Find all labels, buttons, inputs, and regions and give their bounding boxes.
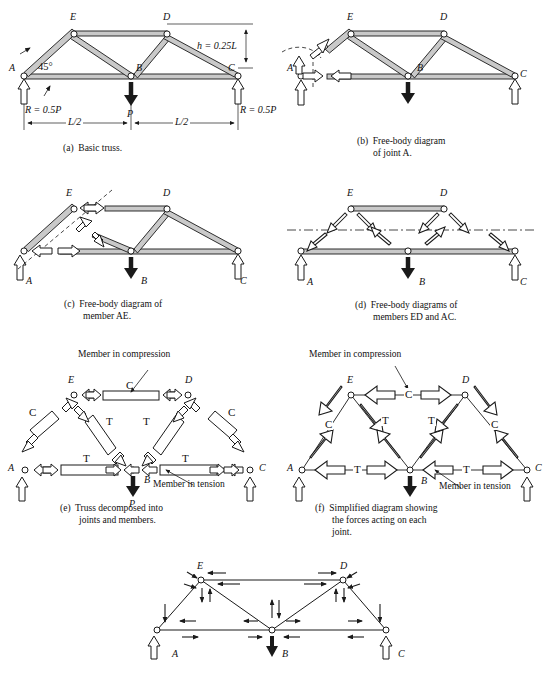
joint-label-a-a: A	[9, 62, 15, 73]
member-mark-f-t-bottom-right: T	[462, 463, 471, 475]
joint-label-d-f: D	[462, 374, 469, 385]
member-mark-t-diag-right: T	[143, 415, 150, 427]
panel-e-caption-l1: (e) Truss decomposed into	[60, 502, 163, 514]
joint-label-a-c: A	[26, 275, 32, 286]
joint-label-e-f: E	[347, 374, 353, 385]
panel-d-caption-l1: (d) Free-body diagrams of	[355, 299, 457, 311]
joint-label-d-a: D	[163, 11, 170, 22]
panel-f-caption-l2: the forces acting on each	[332, 514, 426, 526]
panel-b-drawing	[277, 0, 554, 150]
load-arrow-p-f	[403, 476, 417, 497]
joint-label-e-d: E	[347, 187, 353, 198]
member-mark-t-diag-left: T	[106, 415, 113, 427]
joint-label-b-e: B	[144, 474, 150, 485]
panel-f-simplified-joint-forces: Member in compression Member in tension …	[277, 348, 554, 528]
force-arrows-e	[22, 389, 244, 476]
panel-e-decomposed-truss: Member in compression Member in tension …	[0, 348, 277, 528]
member-mark-c-right: C	[228, 406, 235, 418]
load-label-p-a: P	[127, 108, 133, 119]
span-left-label: L/2	[66, 116, 83, 127]
panel-c-caption-l2: member AE.	[83, 310, 131, 322]
joint-label-c-d: C	[520, 276, 527, 287]
panel-e-caption-l2: joints and members.	[79, 514, 156, 526]
callout-compression-e: Member in compression	[78, 349, 170, 359]
member-mark-t-bottom-right: T	[182, 452, 189, 464]
joint-label-c-c: C	[240, 275, 247, 286]
joint-label-b-a: B	[136, 62, 142, 73]
joint-label-d-b: D	[440, 11, 447, 22]
panel-b-caption-l2: of joint A.	[373, 147, 412, 159]
joint-label-a-f: A	[287, 462, 293, 473]
joint-label-d-c: D	[163, 187, 170, 198]
cut-line-c	[18, 190, 112, 269]
panel-b-caption-l1: (b) Free-body diagram	[357, 135, 445, 147]
callout-compression-f: Member in compression	[309, 349, 401, 359]
panel-c-fbd-member-ae: E D A B C (c) Free-body diagram of membe…	[0, 175, 277, 345]
panel-g-resultant-forces: E D A B C	[140, 558, 430, 674]
panel-e-drawing	[0, 348, 277, 508]
panel-a-caption: (a) Basic truss.	[63, 142, 122, 154]
member-mark-f-t-bottom-left: T	[353, 463, 362, 475]
joint-label-e-c: E	[66, 187, 72, 198]
panel-c-caption-l1: (c) Free-body diagram of	[64, 298, 162, 310]
member-mark-c-top: C	[126, 379, 133, 391]
callout-tension-e: Member in tension	[153, 479, 225, 489]
reaction-right-label-a: R = 0.5P	[240, 104, 276, 115]
load-arrow-p-e	[126, 476, 140, 497]
panel-f-drawing	[277, 348, 554, 508]
joint-label-b-g: B	[282, 648, 288, 659]
panel-f-caption-l1: (f) Simplified diagram showing	[315, 502, 437, 514]
joint-label-c-f: C	[535, 462, 542, 473]
joint-label-c-g: C	[398, 648, 405, 659]
joint-label-e-e: E	[68, 374, 74, 385]
joint-label-d-d: D	[440, 187, 447, 198]
load-arrow-p-d	[401, 257, 415, 279]
joint-label-d-g: D	[340, 560, 347, 571]
height-label: h = 0.25L	[197, 40, 237, 51]
member-mark-f-c-right: C	[490, 418, 499, 430]
member-mark-f-t-diag-right: T	[427, 414, 436, 426]
joints-e	[22, 392, 253, 473]
panel-f-caption-l3: joint.	[332, 526, 352, 538]
panel-a-drawing	[0, 0, 277, 150]
joint-label-b-f: B	[421, 475, 427, 486]
joint-label-a-g: A	[172, 648, 178, 659]
member-mark-f-t-diag-left: T	[381, 414, 390, 426]
load-arrow-p-g	[266, 636, 278, 657]
load-arrow-p-c	[124, 257, 138, 279]
joint-label-a-d: A	[307, 276, 313, 287]
members-b	[298, 29, 518, 79]
joint-label-a-e: A	[8, 462, 14, 473]
angle-label-45: 45°	[38, 61, 53, 72]
joint-label-c-b: C	[520, 68, 527, 79]
joint-label-d-e: D	[185, 374, 192, 385]
joint-label-e-b: E	[347, 11, 353, 22]
callout-tension-f: Member in tension	[439, 481, 511, 491]
joint-label-c-a: C	[228, 62, 235, 73]
member-mark-t-bottom-left: T	[83, 452, 90, 464]
joint-label-b-c: B	[141, 275, 147, 286]
panel-a-basic-truss: E D A B C 45° h = 0.25L R = 0.5P R = 0.5…	[0, 0, 277, 170]
panel-b-fbd-joint-a: E D A B C (b) Free-body diagram of joint…	[277, 0, 554, 170]
member-mark-f-c-top: C	[404, 388, 413, 400]
joint-label-b-d: B	[419, 276, 425, 287]
joint-label-b-b: B	[417, 62, 423, 73]
member-mark-c-left: C	[29, 406, 36, 418]
span-right-label: L/2	[173, 116, 190, 127]
member-mark-f-c-left: C	[324, 418, 333, 430]
members-a	[21, 29, 241, 79]
joint-label-e-g: E	[197, 560, 203, 571]
separated-members-e	[30, 391, 237, 475]
reaction-left-label-a: R = 0.5P	[25, 104, 61, 115]
forces-d	[307, 213, 509, 251]
joint-label-c-e: C	[259, 462, 266, 473]
panel-d-caption-l2: members ED and AC.	[373, 311, 456, 323]
panel-d-fbd-members-ed-ac: E D A B C (d) Free-body diagrams of memb…	[277, 175, 554, 345]
members-c	[21, 204, 241, 254]
joint-label-e-a: E	[70, 11, 76, 22]
load-arrow-p-b	[401, 82, 415, 104]
joint-label-a-b: A	[287, 62, 293, 73]
